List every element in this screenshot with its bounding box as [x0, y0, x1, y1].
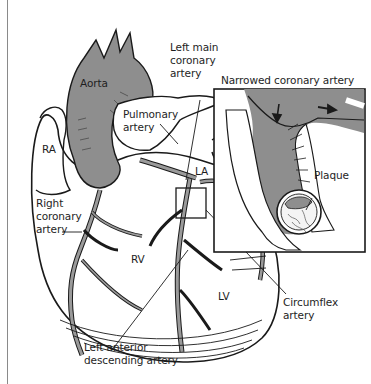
label-left-main-line3: artery	[170, 67, 201, 80]
label-pulmonary-line1: Pulmonary	[123, 108, 178, 121]
label-lv: LV	[218, 290, 230, 303]
label-inset-title: Narrowed coronary artery	[221, 74, 354, 87]
label-rv: RV	[131, 253, 145, 266]
label-right-coronary-line3: artery	[36, 223, 67, 236]
label-aorta: Aorta	[80, 77, 108, 90]
label-plaque: Plaque	[314, 169, 349, 182]
label-lad-line2: descending artery	[84, 354, 178, 367]
label-left-main-line2: coronary	[170, 54, 216, 67]
label-right-coronary-line1: Right	[36, 197, 63, 210]
label-ra: RA	[42, 143, 56, 156]
label-right-coronary-line2: coronary	[36, 210, 82, 223]
label-circumflex-line1: Circumflex	[283, 296, 338, 309]
label-circumflex-line2: artery	[283, 309, 314, 322]
label-lad-line1: Left anterior	[84, 341, 147, 354]
label-la: LA	[195, 165, 208, 178]
label-left-main-line1: Left main	[170, 41, 218, 54]
label-pulmonary-line2: artery	[123, 121, 154, 134]
